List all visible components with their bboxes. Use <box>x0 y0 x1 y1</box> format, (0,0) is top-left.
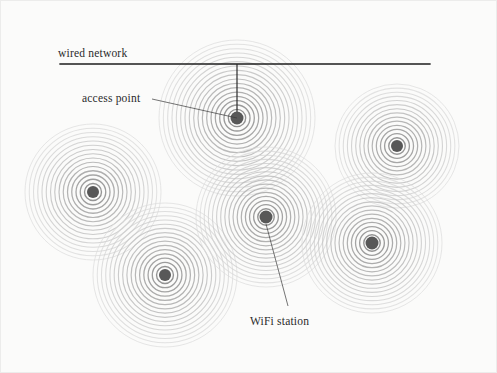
diagram-canvas: wired network access point WiFi station <box>0 0 497 373</box>
wifi-network-diagram: wired network access point WiFi station <box>0 0 497 373</box>
